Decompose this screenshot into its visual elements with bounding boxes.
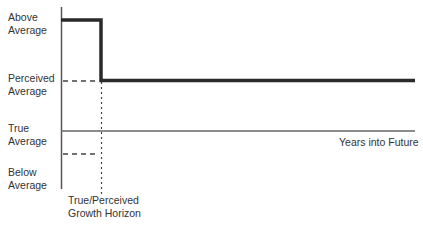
label-growth-horizon-line2: Growth Horizon xyxy=(68,207,141,220)
growth-horizon-diagram xyxy=(0,0,423,225)
label-below-average: Below Average xyxy=(8,166,47,192)
label-perceived-average: Perceived Average xyxy=(8,72,55,98)
label-true-average: True Average xyxy=(8,122,47,148)
growth-step-line xyxy=(61,20,415,81)
label-above-average: Above Average xyxy=(8,11,47,37)
x-axis-label: Years into Future xyxy=(339,136,419,149)
label-below-average-line2: Average xyxy=(8,179,47,192)
label-above-average-line2: Average xyxy=(8,24,47,37)
label-perceived-average-line1: Perceived xyxy=(8,72,55,85)
label-growth-horizon-line1: True/Perceived xyxy=(68,194,141,207)
label-growth-horizon: True/Perceived Growth Horizon xyxy=(68,194,141,220)
label-perceived-average-line2: Average xyxy=(8,85,55,98)
label-true-average-line1: True xyxy=(8,122,47,135)
label-true-average-line2: Average xyxy=(8,135,47,148)
label-below-average-line1: Below xyxy=(8,166,47,179)
label-above-average-line1: Above xyxy=(8,11,47,24)
